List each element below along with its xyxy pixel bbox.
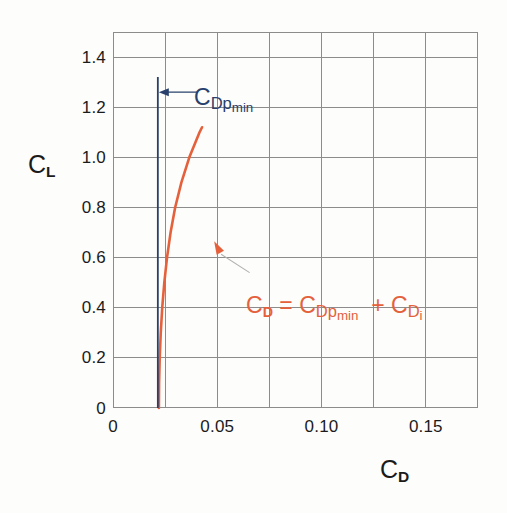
eq-plus: + <box>371 292 384 318</box>
eq-cdi-i: i <box>420 308 423 323</box>
eq-cdi-d: D <box>408 302 420 321</box>
cdpmin-min: min <box>232 100 253 115</box>
x-tick-label: 0.05 <box>187 418 247 435</box>
x-tick-label: 0.15 <box>396 418 456 435</box>
eq-equals: = <box>279 292 292 318</box>
x-axis-title: CD <box>380 455 409 486</box>
cdpmin-p: p <box>223 94 232 113</box>
x-axis-title-main: C <box>380 455 398 483</box>
eq-cdp-p: p <box>328 302 337 321</box>
cdpmin-annotation-label: CDpmin <box>194 86 253 115</box>
y-axis-title-main: C <box>28 150 46 178</box>
y-axis-title-subscript: L <box>46 163 55 180</box>
drag-equation-annotation: CD = CDpmin + CDi <box>246 294 423 323</box>
chart-page: 00.20.40.60.81.01.21.4 00.050.100.15 CL … <box>0 0 507 513</box>
eq-cdp-min: min <box>337 308 358 323</box>
eq-cdi-c: C <box>391 292 408 318</box>
x-axis-tick-labels: 00.050.100.15 <box>0 0 507 513</box>
eq-cd-d: D <box>263 304 273 320</box>
eq-cdp-c: C <box>299 292 316 318</box>
cdpmin-c: C <box>194 84 211 110</box>
cdpmin-d: D <box>211 94 223 113</box>
x-tick-label: 0 <box>83 418 143 435</box>
y-axis-title: CL <box>28 150 56 181</box>
x-axis-title-subscript: D <box>398 468 409 485</box>
eq-cd-c: C <box>246 292 263 318</box>
eq-cdp-d: D <box>316 302 328 321</box>
x-tick-label: 0.10 <box>292 418 352 435</box>
